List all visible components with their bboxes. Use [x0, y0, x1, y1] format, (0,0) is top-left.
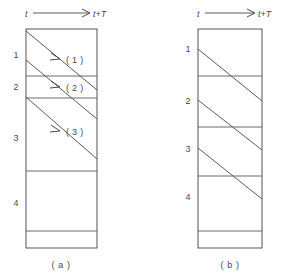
panel-b: t t+T 1 2 3 4 ( b ) [185, 9, 272, 270]
panel-a-flow-tag-1: ( 1 ) [66, 55, 84, 65]
panel-a-row-label-3: 3 [13, 133, 18, 143]
panel-b-row-label-3: 3 [185, 144, 190, 154]
panel-a-flow-tag-3: ( 3 ) [66, 127, 84, 137]
panel-b-caption: ( b ) [220, 260, 239, 270]
panel-a-row-label-1: 1 [13, 50, 18, 60]
panel-a-caption: ( a ) [51, 260, 70, 270]
panel-a-time-axis: t t+T [25, 9, 108, 19]
panel-b-diagonal-2 [198, 100, 262, 150]
panel-a-diagonal-3 [26, 97, 97, 159]
panel-b-frame [198, 29, 262, 248]
panel-a-axis-end-label: t+T [93, 9, 108, 19]
panel-a: t t+T ( 1 ) ( 2 ) ( 3 ) [13, 9, 107, 270]
panel-b-row-label-1: 1 [185, 44, 190, 54]
panel-b-diagonal-3 [198, 148, 262, 199]
figure-container: t t+T ( 1 ) ( 2 ) ( 3 ) [0, 0, 288, 273]
panel-b-row-label-4: 4 [185, 192, 190, 202]
panel-b-axis-start-label: t [197, 9, 200, 19]
panel-a-flow-arrowhead-1 [50, 53, 60, 60]
panel-b-row-label-2: 2 [185, 96, 190, 106]
panel-b-diagonal-1 [198, 49, 262, 101]
panel-a-axis-start-label: t [25, 9, 28, 19]
panel-a-row-label-4: 4 [13, 198, 18, 208]
panel-a-diagonal-1 [26, 31, 97, 90]
panel-b-time-axis: t t+T [197, 9, 273, 19]
panel-a-row-label-2: 2 [13, 82, 18, 92]
panel-a-flow-arrowhead-3 [50, 125, 60, 132]
panel-b-axis-end-label: t+T [258, 9, 273, 19]
panel-a-flow-tag-2: ( 2 ) [66, 83, 84, 93]
panel-a-diagonal-2 [26, 60, 97, 119]
panel-a-frame [26, 29, 97, 248]
diagram-canvas: t t+T ( 1 ) ( 2 ) ( 3 ) [0, 0, 288, 273]
